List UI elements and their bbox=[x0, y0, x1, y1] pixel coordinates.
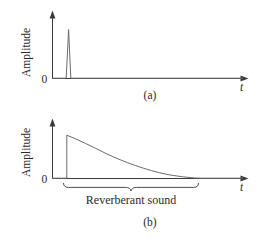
reverberant-sound-label: Reverberant sound bbox=[86, 193, 176, 207]
panel-a-xlabel: t bbox=[240, 81, 244, 93]
panel-a-impulse-trace bbox=[53, 30, 244, 79]
panel-b: Amplitude 0 t Reverberant sound (b) bbox=[20, 119, 249, 230]
panel-a-caption: (a) bbox=[144, 89, 157, 102]
reverberation-figure: Amplitude 0 t (a) Amplitude 0 t bbox=[0, 0, 266, 241]
panel-b-decay-trace bbox=[53, 135, 244, 178]
panel-b-y-axis bbox=[50, 119, 56, 179]
panel-a-y-axis bbox=[50, 11, 56, 79]
reverberant-sound-brace bbox=[64, 183, 199, 191]
panel-b-origin-label: 0 bbox=[42, 173, 48, 185]
panel-b-caption: (b) bbox=[143, 216, 157, 229]
panel-a-origin-label: 0 bbox=[42, 73, 48, 85]
panel-b-ylabel: Amplitude bbox=[20, 128, 33, 177]
panel-a: Amplitude 0 t (a) bbox=[20, 11, 249, 103]
panel-a-ylabel: Amplitude bbox=[20, 28, 33, 77]
panel-b-xlabel: t bbox=[240, 181, 244, 193]
